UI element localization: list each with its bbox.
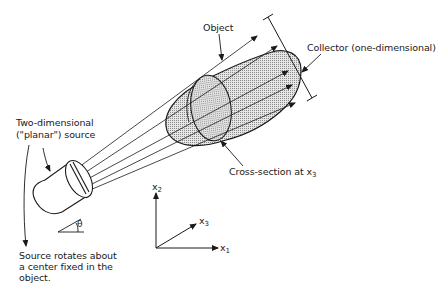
object-pointer [219, 34, 222, 60]
cross-section-sub: 3 [312, 171, 316, 179]
cross-section-label: Cross-section at x3 [229, 166, 316, 179]
rotation-label-line1: Source rotates about [19, 250, 117, 261]
collector-pointer [302, 54, 321, 72]
diagram-canvas: Object Collector (one-dimensional) Two-d… [0, 0, 446, 289]
object-label: Object [203, 22, 233, 33]
axis-x1-text: x [220, 242, 226, 253]
cross-section-text: Cross-section at x [229, 166, 312, 177]
cross-section-pointer [221, 141, 243, 166]
axis-x2-label: x2 [152, 181, 162, 194]
rotation-arrow [24, 145, 29, 246]
source-cylinder [33, 156, 98, 213]
axis-x2-sub: 2 [158, 186, 162, 194]
axis-x1-label: x1 [220, 242, 230, 255]
rotation-label-line3: object. [19, 272, 51, 283]
object-shape [166, 51, 301, 146]
collector-label: Collector (one-dimensional) [307, 42, 436, 53]
rotation-label-line2: a center fixed in the [19, 261, 113, 272]
source-label-line1: Two-dimensional [16, 117, 94, 128]
theta-label: θ [77, 219, 82, 230]
source-pointer [43, 148, 50, 171]
axis-x1-sub: 1 [226, 247, 230, 255]
axis-x3-sub: 3 [205, 220, 209, 228]
axis-x3-text: x [199, 215, 205, 226]
axis-x2-text: x [152, 181, 158, 192]
axis-x3-label: x3 [199, 215, 209, 228]
source-label-line2: ("planar") source [16, 129, 95, 140]
